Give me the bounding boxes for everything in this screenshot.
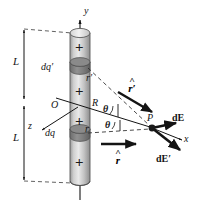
point-P-marker [149, 125, 156, 132]
distance-label-lower: r [85, 124, 89, 134]
length-label-upper: L [13, 56, 19, 67]
unit-vector-label-upper: ˄ r′ [124, 76, 140, 94]
x-axis-label: x [184, 134, 188, 144]
field-vector-dEprime-arrow [152, 128, 180, 150]
field-vector-label-dEprime: dE′ [156, 154, 171, 164]
radius-label: R [92, 98, 98, 108]
construction-dashed-lines [24, 29, 72, 183]
unit-vector-base-lower: r [111, 155, 125, 166]
origin-label: O [51, 100, 58, 110]
charge-element-label-lower: dq [45, 128, 55, 138]
plus-charge-symbol: + [75, 40, 84, 55]
distance-label-upper: r′ [86, 73, 92, 83]
angle-label-lower: θ [105, 120, 110, 130]
unit-vector-base-upper: r′ [124, 83, 140, 94]
charge-element-label-upper: dq′ [41, 62, 53, 72]
plus-charge-symbol: + [75, 114, 84, 129]
unit-vector-label-lower: ˄ r [111, 148, 125, 166]
point-P-label: P [147, 113, 153, 123]
z-axis-label: z [28, 121, 32, 131]
physics-figure-charged-rod: y L L dq′ dq O R z r′ r ˄ r′ ˄ r θ θ P d… [0, 0, 198, 202]
field-vector-label-dE: dE [172, 113, 184, 123]
angle-label-upper: θ [103, 104, 108, 114]
y-axis-label: y [84, 6, 88, 16]
plus-charge-symbol: + [75, 84, 84, 99]
unit-vector-upper-arrow [118, 92, 152, 112]
field-vector-dE-arrow [152, 123, 176, 128]
length-label-lower: L [13, 132, 19, 143]
distance-line-lower [88, 129, 150, 133]
figure-canvas [0, 0, 198, 202]
angle-marker-lower [112, 120, 120, 131]
plus-charge-symbol: + [75, 155, 84, 170]
